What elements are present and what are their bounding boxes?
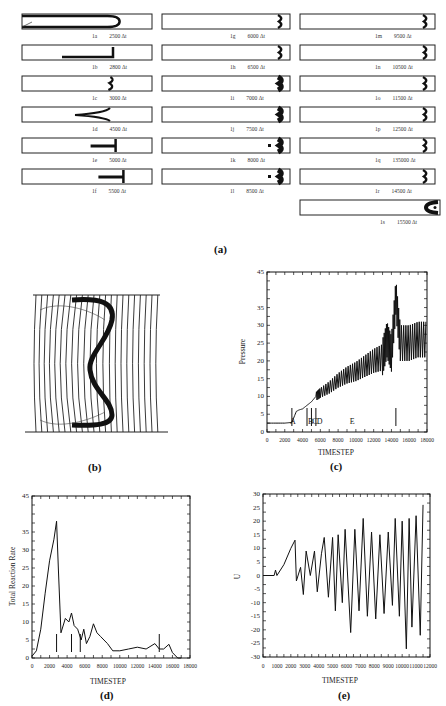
panel-label-b: (b) — [88, 461, 101, 473]
tube-time: 8000 Δt — [248, 157, 265, 163]
y-tick-label: 15 — [13, 600, 29, 608]
tube-1o — [300, 76, 435, 91]
y-tick-label: 25 — [244, 504, 260, 512]
tube-1b — [22, 45, 152, 60]
x-axis-title-d: TIMESTEP — [90, 677, 126, 686]
tube-1j — [162, 107, 290, 122]
tube-caption-1f: 1f5500 Δt — [92, 188, 126, 194]
y-tick-label: 45 — [13, 492, 29, 500]
y-tick-label: -10 — [244, 599, 260, 607]
tube-time: 2500 Δt — [109, 33, 126, 39]
tube-time: 15500 Δt — [397, 219, 417, 225]
reaction-rate-chart — [32, 496, 190, 658]
y-tick-label: 5 — [13, 636, 29, 644]
y-tick-label: 0 — [248, 428, 264, 436]
tube-1d — [22, 107, 152, 122]
x-tick-label: 14000 — [147, 663, 163, 669]
tube-time: 11500 Δt — [393, 95, 413, 101]
tube-1q — [300, 138, 435, 153]
y-tick-label: 30 — [248, 321, 264, 329]
tube-1h — [162, 45, 290, 60]
phase-label: E — [350, 417, 355, 426]
tube-time: 9500 Δt — [394, 33, 411, 39]
tube-id: 1o — [375, 95, 381, 101]
tube-caption-1m: 1m9500 Δt — [375, 33, 411, 39]
y-tick-label: 0 — [244, 572, 260, 580]
tube-id: 1l — [230, 188, 234, 194]
y-tick-label: -5 — [244, 585, 260, 593]
tube-caption-1g: 1g6000 Δt — [230, 33, 265, 39]
y-tick-label: 30 — [244, 490, 260, 498]
x-axis-title-c: TIMESTEP — [318, 448, 354, 457]
panel-c: Pressure 0510152025303545 ABCDE 02000400… — [230, 265, 446, 480]
tube-caption-1n: 1n10500 Δt — [375, 64, 413, 70]
tube-id: 1g — [230, 33, 236, 39]
y-tick-label: 15 — [248, 375, 264, 383]
tube-id: 1h — [230, 64, 236, 70]
tube-caption-1r: 1r14500 Δt — [375, 188, 412, 194]
y-tick-label: 5 — [248, 410, 264, 418]
x-tick-label: 18000 — [419, 437, 435, 443]
tube-time: 2800 Δt — [110, 64, 127, 70]
tube-caption-1s: 1s15500 Δt — [380, 219, 417, 225]
y-axis-title-e: U — [233, 574, 242, 579]
tube-1n — [300, 45, 435, 60]
tube-time: 5000 Δt — [109, 157, 126, 163]
panel-e: U 302520151050-5-10-15-20-25-30 01000200… — [230, 480, 446, 706]
tube-caption-1d: 1d4500 Δt — [92, 126, 127, 132]
tube-caption-1o: 1o11500 Δt — [375, 95, 413, 101]
tube-caption-1k: 1k8000 Δt — [230, 157, 265, 163]
tube-id: 1c — [92, 95, 97, 101]
y-tick-label: 15 — [244, 531, 260, 539]
tube-caption-1h: 1h6500 Δt — [230, 64, 265, 70]
phase-label: D — [317, 417, 323, 426]
x-tick-label: 4000 — [295, 437, 311, 443]
tube-id: 1i — [230, 95, 234, 101]
tube-id: 1e — [92, 157, 97, 163]
tube-1e — [22, 138, 152, 153]
y-tick-label: 10 — [248, 392, 264, 400]
x-tick-label: 8000 — [330, 437, 346, 443]
y-tick-label: 0 — [13, 654, 29, 662]
y-tick-label: 35 — [13, 528, 29, 536]
y-tick-label: 45 — [248, 268, 264, 276]
tube-caption-1e: 1e5000 Δt — [92, 157, 127, 163]
y-tick-label: 20 — [13, 582, 29, 590]
x-tick-label: 0 — [259, 437, 275, 443]
pressure-chart: ABCDE — [267, 272, 427, 432]
x-tick-label: 16000 — [401, 437, 417, 443]
x-tick-label: 18000 — [182, 663, 198, 669]
tube-time: 7500 Δt — [246, 126, 263, 132]
y-tick-label: 5 — [244, 558, 260, 566]
tube-time: 8500 Δt — [246, 188, 263, 194]
tube-1l — [162, 169, 290, 184]
tube-1f — [22, 169, 152, 184]
tube-1i — [162, 76, 290, 91]
tube-time: 6500 Δt — [248, 64, 265, 70]
tube-time: 4500 Δt — [110, 126, 127, 132]
panel-label-d: (d) — [100, 689, 113, 701]
tube-1m — [300, 14, 435, 29]
tube-time: 10500 Δt — [393, 64, 413, 70]
x-tick-label: 2000 — [42, 663, 58, 669]
y-tick-label: -25 — [244, 639, 260, 647]
y-tick-label: 10 — [244, 544, 260, 552]
x-tick-label: 14000 — [383, 437, 399, 443]
x-tick-label: 4000 — [59, 663, 75, 669]
tube-1r — [300, 169, 435, 184]
x-tick-label: 6000 — [77, 663, 93, 669]
tube-caption-1a: 1a2500 Δt — [92, 33, 127, 39]
y-tick-label: -15 — [244, 612, 260, 620]
tube-caption-1l: 1l8500 Δt — [230, 188, 264, 194]
x-tick-label: 2000 — [277, 437, 293, 443]
y-tick-label: 25 — [248, 339, 264, 347]
y-tick-label: -30 — [244, 653, 260, 661]
tube-id: 1q — [375, 157, 381, 163]
y-tick-label: 25 — [13, 564, 29, 572]
tube-id: 1j — [230, 126, 234, 132]
panel-label-c: (c) — [330, 460, 342, 472]
tube-caption-1i: 1i7000 Δt — [230, 95, 264, 101]
panel-label-a: (a) — [214, 243, 227, 255]
tube-1a — [22, 14, 152, 29]
streamline-diagram — [0, 280, 230, 450]
